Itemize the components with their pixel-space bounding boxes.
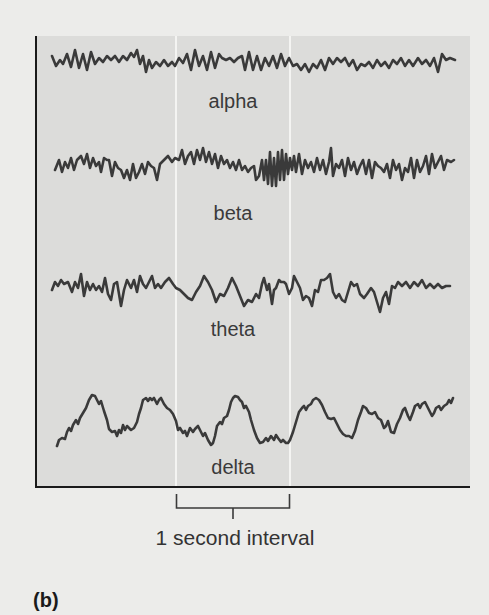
interval-bracket [177, 494, 290, 519]
panel-tag: (b) [33, 589, 59, 612]
delta-trace [57, 395, 453, 446]
y-axis-line [35, 36, 37, 488]
x-axis-line [35, 486, 470, 488]
beta-trace [55, 148, 454, 186]
beta-label: beta [163, 202, 303, 224]
alpha-label: alpha [163, 90, 303, 112]
delta-label: delta [163, 456, 303, 478]
theta-trace [52, 274, 450, 312]
alpha-trace [52, 50, 455, 72]
interval-label: 1 second interval [120, 526, 350, 550]
theta-label: theta [163, 318, 303, 340]
